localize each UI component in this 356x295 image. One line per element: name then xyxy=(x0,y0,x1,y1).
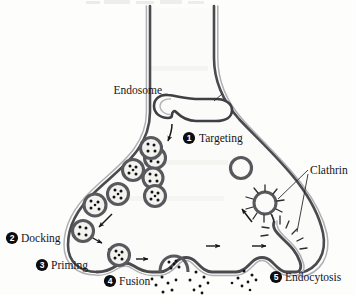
synaptic-vesicle xyxy=(84,194,106,216)
step-label-fusion: Fusion xyxy=(119,275,151,287)
synaptic-vesicle-cycle-figure: Endosome Clathrin 1 Targeting 2 Docking … xyxy=(0,0,356,295)
terminal-cytoplasm xyxy=(68,8,323,272)
endosome-label: Endosome xyxy=(113,84,162,96)
primed-vesicle xyxy=(109,245,130,266)
page-scan-artifact xyxy=(86,0,204,4)
step-docking: 2 Docking xyxy=(6,232,61,245)
step-badge-number-5: 5 xyxy=(274,272,279,282)
step-targeting: 1 Targeting xyxy=(183,132,243,145)
clathrin-label: Clathrin xyxy=(310,164,348,176)
step-badge-number-4: 4 xyxy=(108,276,113,286)
diagram-canvas: Endosome Clathrin 1 Targeting 2 Docking … xyxy=(0,0,356,295)
synaptic-vesicle xyxy=(145,186,166,207)
synaptic-vesicle xyxy=(141,138,162,159)
step-label-endocytosis: Endocytosis xyxy=(285,271,342,284)
step-label-targeting: Targeting xyxy=(199,132,243,145)
step-fusion: 4 Fusion xyxy=(104,275,151,287)
synaptic-vesicle xyxy=(123,160,144,181)
docked-vesicle xyxy=(73,221,94,242)
step-priming: 3 Priming xyxy=(36,259,88,272)
synaptic-vesicle xyxy=(108,184,129,205)
step-badge-number-2: 2 xyxy=(10,233,15,243)
step-badge-number-3: 3 xyxy=(40,260,45,270)
endosome-structure xyxy=(154,95,232,121)
step-badge-number-1: 1 xyxy=(187,133,192,143)
step-label-docking: Docking xyxy=(21,232,61,245)
uncoated-vesicle xyxy=(231,158,252,179)
step-label-priming: Priming xyxy=(51,259,88,272)
